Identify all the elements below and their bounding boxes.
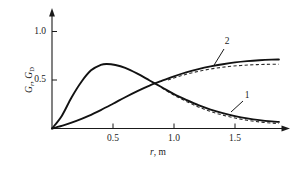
chart-figure: 1.0 0.5 0.5 1.0 1.5 Gr, GD r, m <box>0 0 298 171</box>
svg-text:r, m: r, m <box>150 147 166 157</box>
series-1-dashed-path <box>162 88 279 124</box>
x-axis-title-unit: , m <box>154 147 167 157</box>
curve-label-1: 1 <box>245 90 250 100</box>
axes-group <box>49 8 290 131</box>
x-tick-label-1.0: 1.0 <box>168 133 180 143</box>
callout-group <box>214 49 244 112</box>
y-axis-title-sub2: D <box>28 67 35 72</box>
x-axis-arrow-icon <box>282 126 291 132</box>
curve-label-2: 2 <box>225 36 230 46</box>
y-tick-group <box>52 32 57 81</box>
x-axis-title: r, m <box>150 147 166 157</box>
y-axis-title: Gr, GD <box>24 67 35 93</box>
y-tick-label-0.5: 0.5 <box>34 74 46 84</box>
y-tick-label-1.0: 1.0 <box>34 26 46 36</box>
line-chart: 1.0 0.5 0.5 1.0 1.5 Gr, GD r, m <box>0 0 298 171</box>
svg-text:Gr, GD: Gr, GD <box>24 67 35 93</box>
leader-line-1 <box>231 101 243 112</box>
y-axis-arrow-icon <box>49 8 55 17</box>
x-tick-group <box>113 124 235 129</box>
x-tick-label-1.5: 1.5 <box>229 133 241 143</box>
x-tick-label-0.5: 0.5 <box>107 133 119 143</box>
